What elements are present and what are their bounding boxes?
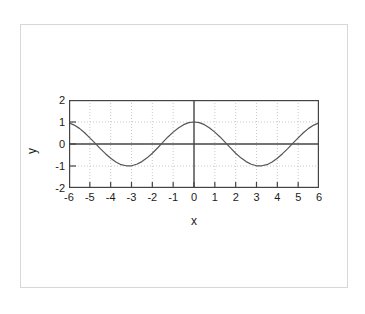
x-tick-label: -4 <box>106 192 116 203</box>
x-tick-label: 5 <box>295 192 301 203</box>
y-tick-label: 1 <box>59 117 65 128</box>
y-axis-tick-labels: 2 1 0 -1 -2 <box>43 1 65 265</box>
x-tick-label: -5 <box>85 192 95 203</box>
x-tick-label: -6 <box>64 192 74 203</box>
plot-area <box>69 100 319 188</box>
y-tick-label: 2 <box>59 95 65 106</box>
y-axis-title: y <box>25 148 39 154</box>
x-axis-title: x <box>191 214 197 228</box>
x-tick-label: 4 <box>274 192 280 203</box>
figure-card: y 2 1 0 -1 -2 <box>20 24 348 288</box>
y-tick-label: 0 <box>59 139 65 150</box>
x-tick-label: 1 <box>212 192 218 203</box>
chart-svg <box>69 100 319 188</box>
x-tick-label: 3 <box>253 192 259 203</box>
x-tick-label: -1 <box>168 192 178 203</box>
x-tick-label: 2 <box>233 192 239 203</box>
y-tick-label: -1 <box>55 161 65 172</box>
x-tick-label: -3 <box>127 192 137 203</box>
x-tick-label: 6 <box>316 192 322 203</box>
x-tick-label: -2 <box>147 192 157 203</box>
x-tick-label: 0 <box>191 192 197 203</box>
